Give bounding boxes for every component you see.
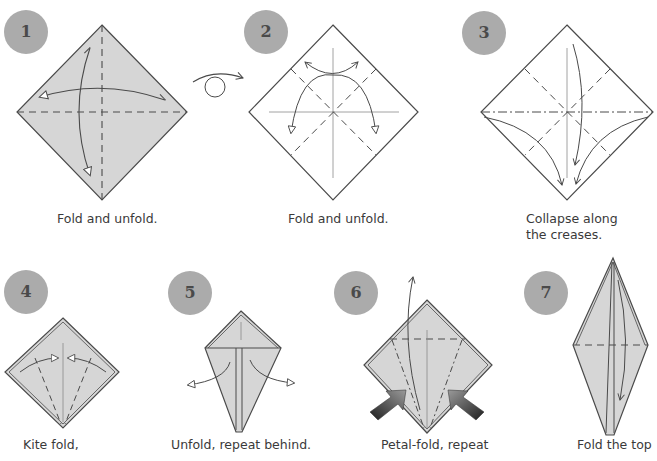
step-6-figure — [364, 277, 492, 433]
push-arrow — [370, 390, 406, 420]
step-5-caption: Unfold, repeat behind. — [171, 437, 311, 453]
step-5-figure — [188, 311, 294, 432]
step-4-caption: Kite fold, — [23, 437, 79, 453]
step-7-figure — [573, 258, 648, 435]
origami-diagram: 1 2 3 4 5 6 7 Fold and unfold. Fold and … — [0, 0, 657, 461]
turn-over-icon — [193, 74, 243, 97]
step-badge-6: 6 — [334, 271, 378, 315]
push-arrow — [448, 390, 484, 420]
step-3-figure — [481, 25, 653, 200]
step-badge-7: 7 — [524, 271, 568, 315]
step-7-caption: Fold the top — [577, 437, 652, 453]
step-2-caption: Fold and unfold. — [288, 211, 389, 227]
step-badge-4: 4 — [4, 270, 48, 314]
step-3-caption-line-2: the creases. — [526, 227, 602, 243]
step-1-figure — [17, 25, 187, 200]
step-1-caption: Fold and unfold. — [57, 211, 158, 227]
step-badge-5: 5 — [168, 271, 212, 315]
step-6-caption: Petal-fold, repeat — [381, 437, 488, 453]
step-badge-2: 2 — [244, 10, 288, 54]
step-badge-1: 1 — [4, 10, 48, 54]
step-3-caption-line-1: Collapse along — [526, 211, 618, 227]
step-4-figure — [5, 318, 119, 428]
step-badge-3: 3 — [462, 11, 506, 55]
